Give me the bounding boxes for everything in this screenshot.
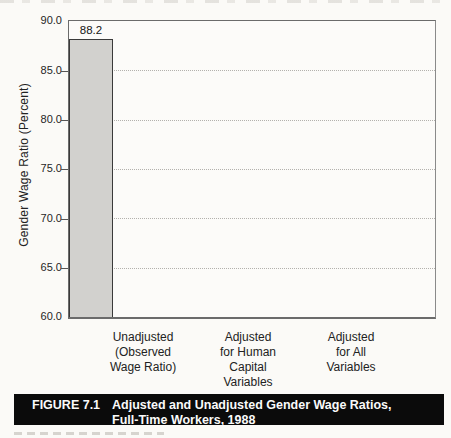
bar-rect bbox=[69, 39, 113, 317]
gridline bbox=[69, 120, 435, 121]
bar-value-label: 88.2 bbox=[80, 24, 102, 36]
plot-area: 72.4 80.5 88.2 bbox=[68, 20, 436, 319]
y-tick-mark bbox=[61, 120, 68, 121]
gridline bbox=[69, 268, 435, 269]
gridline bbox=[69, 70, 435, 71]
cropped-text-fragment-top bbox=[0, 0, 451, 3]
y-tick-label: 90.0 bbox=[18, 14, 62, 26]
y-tick-label: 85.0 bbox=[18, 64, 62, 76]
x-category-label-all-variables: Adjusted for All Variables bbox=[286, 330, 416, 375]
y-tick-mark bbox=[61, 71, 68, 72]
figure-caption-bar: FIGURE 7.1 Adjusted and Unadjusted Gende… bbox=[14, 394, 444, 425]
gridline bbox=[69, 218, 435, 219]
y-tick-label: 60.0 bbox=[18, 310, 62, 322]
y-tick-label: 65.0 bbox=[18, 261, 62, 273]
y-tick-label: 70.0 bbox=[18, 212, 62, 224]
bar-adjusted-all-variables: 88.2 bbox=[69, 39, 113, 317]
gridline bbox=[69, 169, 435, 170]
figure-number-label: FIGURE 7.1 bbox=[32, 398, 100, 413]
y-tick-mark bbox=[61, 268, 68, 269]
scanned-textbook-figure-page: Gender Wage Ratio (Percent) 90.0 85.0 80… bbox=[0, 0, 451, 438]
y-tick-mark bbox=[61, 219, 68, 220]
y-tick-label: 80.0 bbox=[18, 113, 62, 125]
y-tick-label: 75.0 bbox=[18, 162, 62, 174]
y-tick-mark bbox=[61, 169, 68, 170]
cropped-source-line-fragment bbox=[14, 432, 164, 435]
figure-title: Adjusted and Unadjusted Gender Wage Rati… bbox=[112, 398, 391, 427]
